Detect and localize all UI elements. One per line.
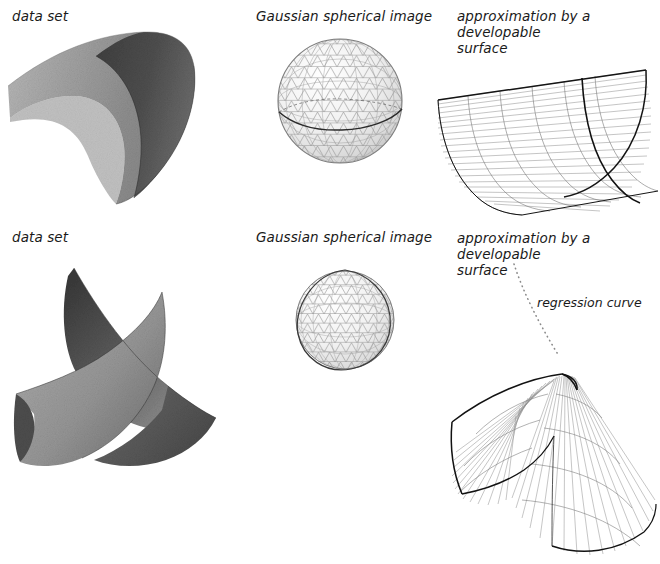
annotation-regression-curve: regression curve bbox=[537, 295, 642, 310]
figure-developable-surfaces: data set bbox=[0, 0, 660, 564]
sphere-triangulation bbox=[272, 33, 408, 169]
ruling-lines-right bbox=[512, 376, 655, 555]
caption-gauss-image-row2: Gaussian spherical image bbox=[256, 230, 432, 246]
surface-body bbox=[14, 268, 216, 466]
panel-approx-cylinder bbox=[432, 42, 660, 218]
sphere-triangulation bbox=[291, 266, 399, 374]
caption-gauss-image-row1: Gaussian spherical image bbox=[256, 9, 432, 25]
fold-edge bbox=[582, 78, 640, 203]
panel-data-set-cone bbox=[2, 252, 234, 478]
panel-data-set-cylinder bbox=[4, 26, 234, 206]
panel-gauss-sphere-cone bbox=[291, 266, 399, 374]
panel-approx-cone bbox=[436, 332, 660, 564]
caption-data-set-row2: data set bbox=[12, 230, 68, 246]
caption-data-set-row1: data set bbox=[12, 9, 68, 25]
surface-body bbox=[8, 32, 195, 204]
panel-gauss-sphere-cylinder bbox=[272, 33, 408, 169]
